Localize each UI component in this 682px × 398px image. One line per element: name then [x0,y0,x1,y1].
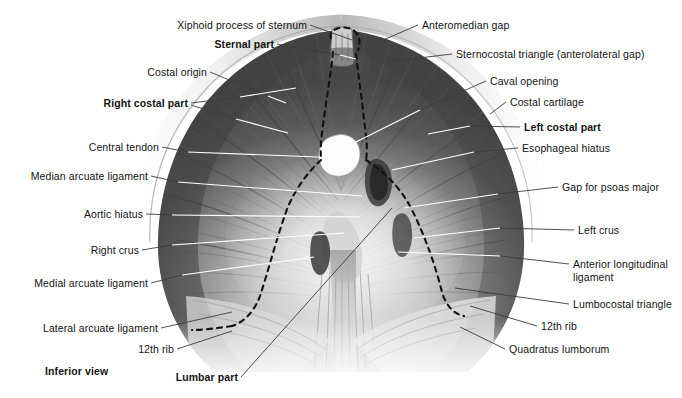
label-left-costal-part: Left costal part [524,121,601,134]
sternal-part-shading [316,48,370,93]
label-sternocostal-triangle: Sternocostal triangle (anterolateral gap… [456,48,645,61]
caval-opening-aperture [319,135,360,177]
label-lateral-arcuate-ligament: Lateral arcuate ligament [43,322,158,335]
label-medial-arcuate-ligament: Medial arcuate ligament [34,277,148,290]
label-lumbar-part: Lumbar part [176,371,238,384]
label-12th-rib-left: 12th rib [138,343,174,356]
label-anteromedian-gap: Anteromedian gap [422,19,509,32]
label-right-crus: Right crus [91,244,139,257]
label-12th-rib-right: 12th rib [541,320,577,333]
label-central-tendon: Central tendon [89,141,159,154]
anatomy-figure: Xiphoid process of sternum Sternal part … [0,0,682,398]
label-right-costal-part: Right costal part [103,97,188,110]
label-sternal-part: Sternal part [214,38,274,51]
label-median-arcuate-ligament: Median arcuate ligament [31,170,148,183]
label-quadratus-lumborum: Quadratus lumborum [509,343,609,356]
label-gap-for-psoas-major: Gap for psoas major [562,181,659,194]
label-anterior-longitudinal-ligament: Anterior longitudinal ligament [573,258,681,283]
label-costal-cartilage: Costal cartilage [510,96,584,109]
label-left-crus: Left crus [578,224,619,237]
label-costal-origin: Costal origin [147,66,207,79]
label-caval-opening: Caval opening [490,75,558,88]
label-lumbocostal-triangle: Lumbocostal triangle [573,298,672,311]
bottom-fade [130,318,554,398]
label-inferior-view: Inferior view [45,365,108,378]
label-esophageal-hiatus: Esophageal hiatus [522,142,610,155]
right-crus-slit [310,231,330,275]
label-aortic-hiatus: Aortic hiatus [84,208,143,221]
label-xiphoid-process-of-sternum: Xiphoid process of sternum [177,19,307,32]
gap-for-psoas-slit [392,213,412,257]
